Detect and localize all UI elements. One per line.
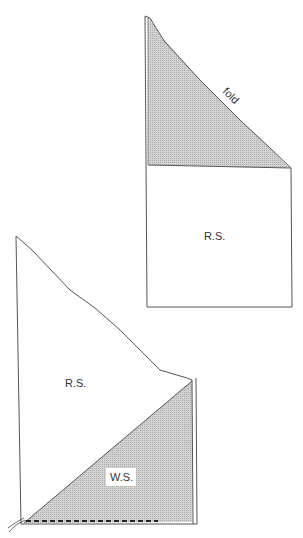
ws-label: W.S. <box>110 471 133 483</box>
bottom-right-edge <box>192 380 193 524</box>
top-figure: fold R.S. <box>145 16 292 307</box>
bottom-left-edge <box>16 236 21 524</box>
top-rs-label: R.S. <box>204 230 225 242</box>
top-left-edge <box>145 16 147 307</box>
bottom-diagonal-edge <box>16 236 192 380</box>
top-right-edge <box>291 168 292 307</box>
bottom-figure: R.S. W.S. <box>8 236 197 532</box>
sewing-diagram: fold R.S. R.S. W.S. <box>0 0 303 538</box>
bottom-rs-label: R.S. <box>65 377 86 389</box>
folded-triangle-shaded <box>148 17 290 168</box>
fold-label: fold <box>221 85 242 106</box>
